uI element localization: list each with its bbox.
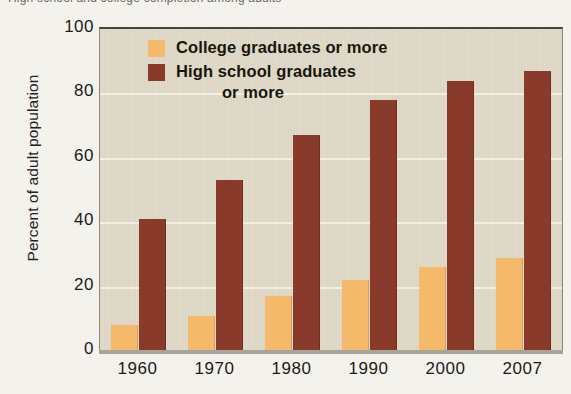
caption-text: High school and college completion among… — [8, 0, 282, 5]
x-tick-1990: 1990 — [338, 359, 400, 379]
bar-college-1990[interactable] — [342, 280, 369, 351]
x-tick-1960: 1960 — [107, 359, 169, 379]
cut-off-caption-strip: High school and college completion among… — [0, 0, 571, 9]
y-tick-40: 40 — [74, 210, 94, 230]
y-tick-20: 20 — [74, 275, 94, 295]
bar-group-2007 — [496, 29, 551, 351]
legend-label-college: College graduates or more — [176, 37, 388, 58]
y-tick-80: 80 — [74, 81, 94, 101]
y-tick-100: 100 — [64, 17, 94, 37]
legend-label-highschool-line1: High school graduates — [176, 62, 356, 80]
bar-college-2007[interactable] — [496, 258, 523, 351]
plot-area: College graduates or more High school gr… — [99, 27, 563, 352]
bar-college-1970[interactable] — [188, 316, 215, 351]
bar-highschool-2007[interactable] — [524, 71, 551, 351]
bar-college-1960[interactable] — [111, 325, 138, 351]
y-tick-60: 60 — [74, 146, 94, 166]
legend-entry-highschool[interactable]: High school graduatesor more — [148, 61, 448, 103]
bar-college-1980[interactable] — [265, 296, 292, 351]
y-axis-tick-labels: 100 80 60 40 20 0 — [38, 9, 94, 394]
bar-highschool-1960[interactable] — [139, 219, 166, 351]
legend-entry-college[interactable]: College graduates or more — [148, 37, 448, 58]
bar-chart-figure: Percent of adult population 100 80 60 40… — [0, 9, 571, 394]
bar-highschool-2000[interactable] — [447, 81, 474, 351]
x-tick-1980: 1980 — [261, 359, 323, 379]
y-tick-0: 0 — [84, 339, 94, 359]
x-axis-tick-labels: 1960 1970 1980 1990 2000 2007 — [99, 359, 561, 379]
x-tick-1970: 1970 — [184, 359, 246, 379]
x-axis-baseline — [99, 350, 563, 354]
legend-swatch-highschool-icon — [148, 64, 165, 81]
x-tick-2000: 2000 — [415, 359, 477, 379]
x-tick-2007: 2007 — [492, 359, 554, 379]
bar-college-2000[interactable] — [419, 267, 446, 351]
bar-highschool-1970[interactable] — [216, 180, 243, 351]
legend: College graduates or more High school gr… — [148, 37, 448, 106]
legend-label-highschool-line2: or more — [176, 82, 356, 103]
bar-highschool-1980[interactable] — [293, 135, 320, 351]
legend-swatch-college-icon — [148, 40, 165, 57]
legend-label-highschool: High school graduatesor more — [176, 61, 356, 103]
bar-highschool-1990[interactable] — [370, 100, 397, 351]
